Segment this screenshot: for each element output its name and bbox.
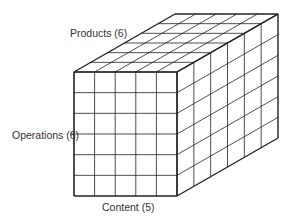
cube-diagram	[0, 0, 291, 222]
products-label: Products (6)	[70, 27, 127, 39]
content-label: Content (5)	[102, 201, 155, 213]
operations-label: Operations (6)	[12, 129, 79, 141]
